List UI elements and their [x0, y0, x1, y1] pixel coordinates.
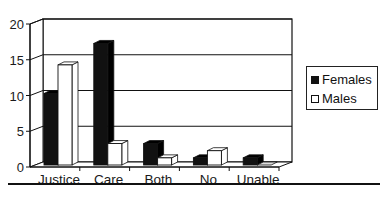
- legend-label-males: Males: [322, 91, 357, 106]
- bar-males-no: [207, 148, 227, 165]
- y-tick-label: 15: [10, 53, 24, 68]
- legend-item-males: Males: [311, 91, 357, 106]
- legend: Females Males: [306, 66, 378, 110]
- legend-item-females: Females: [311, 72, 372, 87]
- y-tick-label: 0: [17, 160, 24, 175]
- bottom-rule: [8, 183, 380, 185]
- bar-males-care: [108, 141, 128, 165]
- legend-swatch-females: [311, 76, 319, 84]
- legend-label-females: Females: [322, 72, 372, 87]
- bar-males-both: [158, 155, 178, 165]
- bar-males-justice: [58, 62, 78, 165]
- y-axis: 05101520: [10, 17, 30, 175]
- y-tick-label: 10: [10, 89, 24, 104]
- legend-swatch-males: [311, 95, 319, 103]
- y-tick-label: 20: [10, 17, 24, 32]
- y-tick-label: 5: [17, 124, 24, 139]
